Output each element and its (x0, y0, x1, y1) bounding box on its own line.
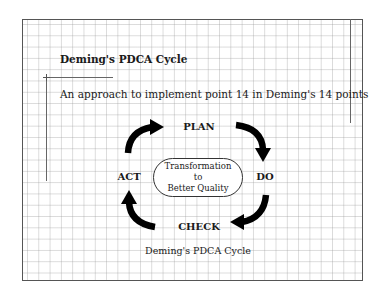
stage-label-plan: PLAN (183, 121, 214, 132)
curved-arrow-do-to-check-icon (230, 195, 266, 230)
curved-arrow-act-to-plan-icon (128, 119, 164, 153)
curved-arrow-plan-to-do-icon (236, 125, 271, 162)
center-text-line-2: to (194, 172, 203, 183)
center-goal-box: Transformation to Better Quality (153, 158, 243, 197)
center-text-line-1: Transformation (165, 161, 232, 172)
stage-label-do: DO (256, 171, 273, 182)
stage-label-check: CHECK (178, 221, 220, 232)
figure-caption: Deming's PDCA Cycle (145, 245, 251, 256)
center-text-line-3: Better Quality (167, 183, 228, 194)
curved-arrow-check-to-act-icon (121, 190, 155, 227)
stage-label-act: ACT (117, 171, 140, 182)
